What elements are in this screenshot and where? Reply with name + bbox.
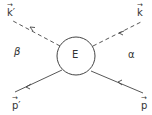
vector-arrow-icon: →	[141, 95, 147, 102]
region-label-left: β	[14, 47, 20, 57]
k-arrow-icon	[119, 31, 124, 35]
p-prime-arrow-icon	[26, 84, 31, 89]
vector-arrow-icon: →	[12, 95, 18, 102]
p-prime-line	[15, 70, 62, 92]
k-line	[93, 21, 143, 46]
vertex-label: E	[72, 50, 78, 60]
label-p: → p	[141, 101, 147, 111]
vector-arrow-icon: →	[137, 2, 143, 9]
label-k: → k	[137, 8, 143, 18]
vector-arrow-icon: →	[7, 2, 13, 9]
region-label-right: α	[128, 50, 135, 60]
k-prime-line	[13, 21, 60, 46]
label-p-prime: → p′	[12, 101, 21, 111]
label-k-prime: → k′	[7, 8, 15, 18]
k-prime-arrow-icon	[30, 27, 35, 31]
p-arrow-icon	[118, 80, 122, 85]
p-line	[91, 71, 143, 93]
